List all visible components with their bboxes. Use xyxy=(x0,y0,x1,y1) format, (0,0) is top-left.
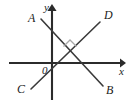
label-x-axis: x xyxy=(119,66,124,77)
label-origin: 0 xyxy=(42,65,48,76)
geometry-figure: A B C D y x 0 xyxy=(0,0,130,103)
ray-cd-line xyxy=(31,22,100,89)
label-point-d: D xyxy=(104,9,113,21)
label-point-c: C xyxy=(17,83,25,95)
label-point-a: A xyxy=(28,12,35,24)
label-y-axis: y xyxy=(44,2,49,13)
label-point-b: B xyxy=(106,84,113,96)
